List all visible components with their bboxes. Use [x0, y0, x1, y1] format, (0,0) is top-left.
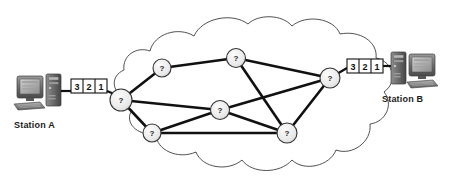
node-label: ? — [234, 54, 239, 63]
station-a-label: Station A — [14, 120, 55, 130]
node-lower-right[interactable]: ? — [277, 123, 297, 143]
diagram-canvas: 3 2 1 ? — [0, 0, 451, 184]
node-entry[interactable]: ? — [110, 89, 132, 111]
node-upper-left[interactable]: ? — [153, 59, 171, 77]
node-lower-left[interactable]: ? — [143, 124, 161, 142]
station-b-computer-icon — [391, 52, 438, 88]
station-b-label: Station B — [382, 94, 423, 104]
node-label: ? — [160, 64, 165, 73]
packet-cell: 1 — [98, 82, 103, 92]
packet-cell: 2 — [362, 62, 367, 72]
node-center[interactable]: ? — [211, 101, 230, 120]
network-cloud — [114, 17, 392, 171]
packet-cell: 3 — [350, 62, 355, 72]
station-a-computer-icon — [14, 74, 61, 110]
packets-left: 3 2 1 — [71, 79, 107, 93]
node-label: ? — [285, 129, 290, 138]
node-label: ? — [119, 96, 124, 105]
node-label: ? — [328, 74, 333, 83]
node-label: ? — [150, 129, 155, 138]
packet-cell: 1 — [374, 62, 379, 72]
network-diagram: 3 2 1 ? — [0, 0, 451, 184]
packet-cell: 3 — [74, 82, 79, 92]
node-top[interactable]: ? — [227, 49, 246, 68]
node-exit[interactable]: ? — [320, 68, 340, 88]
packet-cell: 2 — [86, 82, 91, 92]
cloud-outline — [114, 17, 392, 171]
packets-right: 3 2 1 — [347, 59, 383, 73]
node-label: ? — [218, 106, 223, 115]
